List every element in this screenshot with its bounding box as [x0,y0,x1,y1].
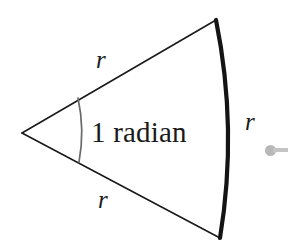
mouse-pointer-dot-icon [265,143,288,157]
angle-label: 1 radian [91,118,187,147]
radian-sector-figure: r r r 1 radian [0,0,288,251]
pointer-tail [273,148,288,152]
radius-label-top: r [96,47,106,72]
radius-label-arc: r [245,109,255,134]
radius-label-bottom: r [98,187,108,212]
